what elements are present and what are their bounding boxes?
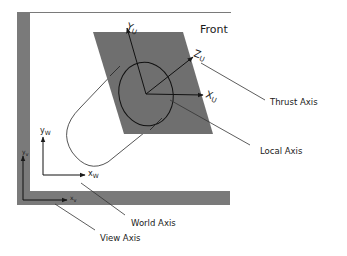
world-y-label: yW	[40, 126, 51, 136]
world-axis-label: World Axis	[131, 218, 176, 228]
world-axis	[43, 137, 85, 175]
front-plane	[93, 32, 213, 134]
local-axis-label: Local Axis	[260, 146, 303, 156]
local-x-label: XU	[204, 89, 220, 105]
view-axis-label: View Axis	[100, 233, 141, 243]
coordinate-axes-diagram: YU ZU XU yW xW yv xv Front Thrust Axis L…	[0, 0, 347, 256]
thrust-axis-label: Thrust Axis	[269, 97, 318, 107]
view-axis-leader	[55, 204, 95, 230]
local-z-label: ZU	[192, 48, 208, 64]
front-label: Front	[200, 23, 229, 36]
world-x-label: xW	[88, 169, 99, 179]
